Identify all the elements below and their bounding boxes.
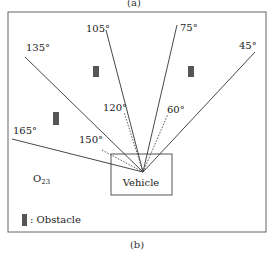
label-165: 165°: [13, 125, 37, 136]
ray-45: [143, 52, 255, 172]
label-105: 105°: [86, 23, 110, 34]
obstacle-3: [53, 112, 59, 125]
label-75: 75°: [180, 22, 198, 33]
obstacle-2: [188, 66, 194, 77]
bottom-caption: (b): [130, 239, 144, 250]
region-label-main: O: [33, 173, 41, 184]
ray-75: [143, 25, 177, 172]
label-45: 45°: [239, 40, 257, 51]
sector-diagram: (a) 135° 105° 75° 45° 165° 120° 60° 150°…: [0, 0, 272, 253]
region-label-subscript: 23: [41, 178, 50, 186]
legend-text: : Obstacle: [30, 214, 81, 225]
label-135: 135°: [26, 42, 50, 53]
obstacle-1: [93, 66, 99, 77]
legend-obstacle-swatch: [22, 214, 27, 226]
top-caption: (a): [127, 0, 141, 8]
vehicle-box: [111, 154, 172, 195]
region-label: O23: [33, 173, 50, 186]
ray-105: [106, 30, 143, 172]
label-120: 120°: [103, 102, 127, 113]
ray-135: [25, 57, 143, 172]
label-150: 150°: [79, 134, 103, 145]
label-60: 60°: [167, 104, 185, 115]
vehicle-label: Vehicle: [122, 177, 160, 188]
